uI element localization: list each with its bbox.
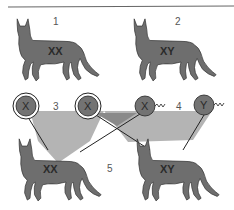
- gamete-chromosome: X: [141, 100, 149, 112]
- offspring-female-chromosomes: XX: [43, 163, 58, 175]
- maternal-gamete-1: X: [13, 93, 39, 119]
- sperm-tail-icon: [155, 104, 165, 107]
- gamete-chromosome: X: [84, 100, 92, 112]
- gamete-chromosome: X: [22, 100, 30, 112]
- label-5: 5: [107, 163, 113, 174]
- parent-male-chromosomes: XY: [160, 45, 175, 57]
- parent-female-cat: XX 1: [17, 16, 99, 81]
- label-2: 2: [175, 16, 181, 27]
- label-1: 1: [53, 16, 59, 27]
- offspring-male-cat: XY: [137, 139, 219, 201]
- parent-male-cat: XY 2: [134, 16, 216, 81]
- label-3: 3: [53, 101, 59, 112]
- maternal-gamete-2: X: [75, 93, 101, 119]
- inheritance-diagram: XX 1 XY 2 X 3 X X 4 Y XX 5 XY: [0, 0, 234, 210]
- sperm-tail-icon: [214, 103, 224, 106]
- offspring-male-chromosomes: XY: [160, 163, 175, 175]
- paternal-gamete-2: Y: [194, 95, 224, 115]
- top-rule: [8, 6, 234, 7]
- label-4: 4: [176, 101, 182, 112]
- gamete-chromosome: Y: [200, 99, 208, 111]
- parent-female-chromosomes: XX: [48, 45, 63, 57]
- maternal-gamete-region: [30, 111, 104, 163]
